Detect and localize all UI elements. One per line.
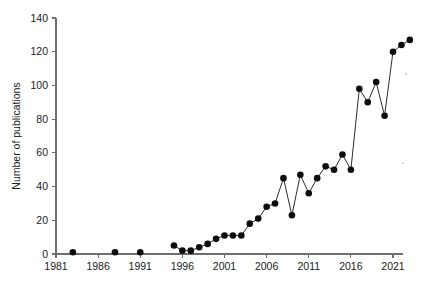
stray-speck-2-icon xyxy=(402,162,404,164)
data-point-marker xyxy=(204,241,211,248)
x-tick-label: 2001 xyxy=(213,260,237,272)
data-point-marker xyxy=(314,175,321,182)
data-point-marker xyxy=(137,249,144,256)
series-polyline xyxy=(174,40,410,251)
y-tick-label: 60 xyxy=(36,146,48,158)
data-point-marker xyxy=(213,236,220,243)
y-tick-label: 80 xyxy=(36,113,48,125)
data-point-marker xyxy=(70,249,77,256)
y-tick-label: 40 xyxy=(36,180,48,192)
y-tick-label: 140 xyxy=(30,12,48,24)
data-point-marker xyxy=(407,37,414,44)
publications-line-chart: 020406080100120140 198119861991199620012… xyxy=(0,0,428,290)
data-point-marker xyxy=(112,249,119,256)
data-point-marker xyxy=(356,86,363,93)
y-axis-title: Number of publications xyxy=(10,82,22,189)
x-tick-label: 1996 xyxy=(171,260,195,272)
data-point-marker xyxy=(322,163,329,170)
data-point-marker xyxy=(331,166,338,173)
data-point-marker xyxy=(373,79,380,86)
y-axis: 020406080100120140 xyxy=(30,12,56,260)
data-point-marker xyxy=(221,232,228,239)
data-point-marker xyxy=(381,112,388,119)
data-point-marker xyxy=(348,166,355,173)
data-point-marker xyxy=(179,247,186,254)
chart-canvas: 020406080100120140 198119861991199620012… xyxy=(0,0,428,290)
data-point-marker xyxy=(364,99,371,106)
data-point-marker xyxy=(238,232,245,239)
x-tick-label: 2021 xyxy=(381,260,405,272)
data-point-marker xyxy=(289,212,296,219)
data-point-marker xyxy=(390,48,397,55)
data-point-marker xyxy=(339,151,346,158)
y-tick-label: 100 xyxy=(30,79,48,91)
data-point-marker xyxy=(230,232,237,239)
x-tick-label: 2011 xyxy=(297,260,320,272)
x-tick-label: 2006 xyxy=(255,260,279,272)
data-point-marker xyxy=(246,220,253,227)
stray-speck-icon xyxy=(405,73,407,75)
data-point-marker xyxy=(280,175,287,182)
x-tick-label: 1981 xyxy=(44,260,68,272)
data-point-marker xyxy=(305,190,312,197)
y-tick-label: 120 xyxy=(30,45,48,57)
data-point-marker xyxy=(188,247,195,254)
x-tick-label: 1986 xyxy=(86,260,110,272)
x-tick-label: 1991 xyxy=(129,260,153,272)
data-point-marker xyxy=(255,215,262,222)
y-tick-label: 0 xyxy=(42,248,48,260)
data-point-marker xyxy=(398,42,405,49)
y-tick-label: 20 xyxy=(36,214,48,226)
x-axis: 198119861991199620012006201120162021 xyxy=(44,254,405,272)
data-series xyxy=(70,37,414,256)
data-point-marker xyxy=(196,244,203,251)
data-point-marker xyxy=(263,204,270,211)
data-point-marker xyxy=(272,200,279,207)
data-point-marker xyxy=(171,242,178,249)
data-point-marker xyxy=(297,171,304,178)
x-tick-label: 2016 xyxy=(339,260,363,272)
